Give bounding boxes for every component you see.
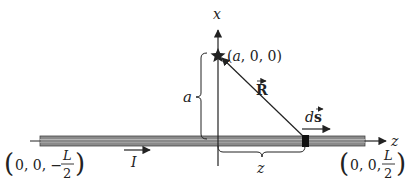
svg-text:L: L [383,148,393,163]
point-label: (a, 0, 0) [227,48,282,64]
svg-text:0, 0, −: 0, 0, − [15,157,62,173]
a-label: a [183,88,192,106]
x-axis-label: x [213,6,221,22]
diagram-canvas: z x (a, 0, 0) R a ds z I ( 0, 0, − L 2 )… [0,0,405,193]
svg-text:(: ( [4,148,14,178]
svg-text:L: L [62,148,72,163]
svg-text:): ) [75,148,85,178]
r-vector-arrow [222,58,305,138]
svg-text:ds: ds [305,109,322,125]
z-distance-label: z [256,160,265,176]
svg-text:): ) [396,148,405,178]
svg-text:2: 2 [63,166,71,181]
current-element [302,135,309,147]
r-vector-label: R [256,81,268,98]
ds-label: ds [305,109,323,125]
z-axis-label: z [390,133,399,149]
wire [30,136,365,146]
right-endpoint-label: ( 0, 0, L 2 ) [339,148,405,181]
z-brace [218,146,305,157]
svg-text:2: 2 [384,166,392,181]
a-brace [196,53,207,139]
svg-text:R: R [256,82,268,98]
svg-text:0, 0,: 0, 0, [350,157,381,173]
svg-text:(: ( [339,148,349,178]
left-endpoint-label: ( 0, 0, − L 2 ) [4,148,85,181]
current-label: I [130,154,137,170]
